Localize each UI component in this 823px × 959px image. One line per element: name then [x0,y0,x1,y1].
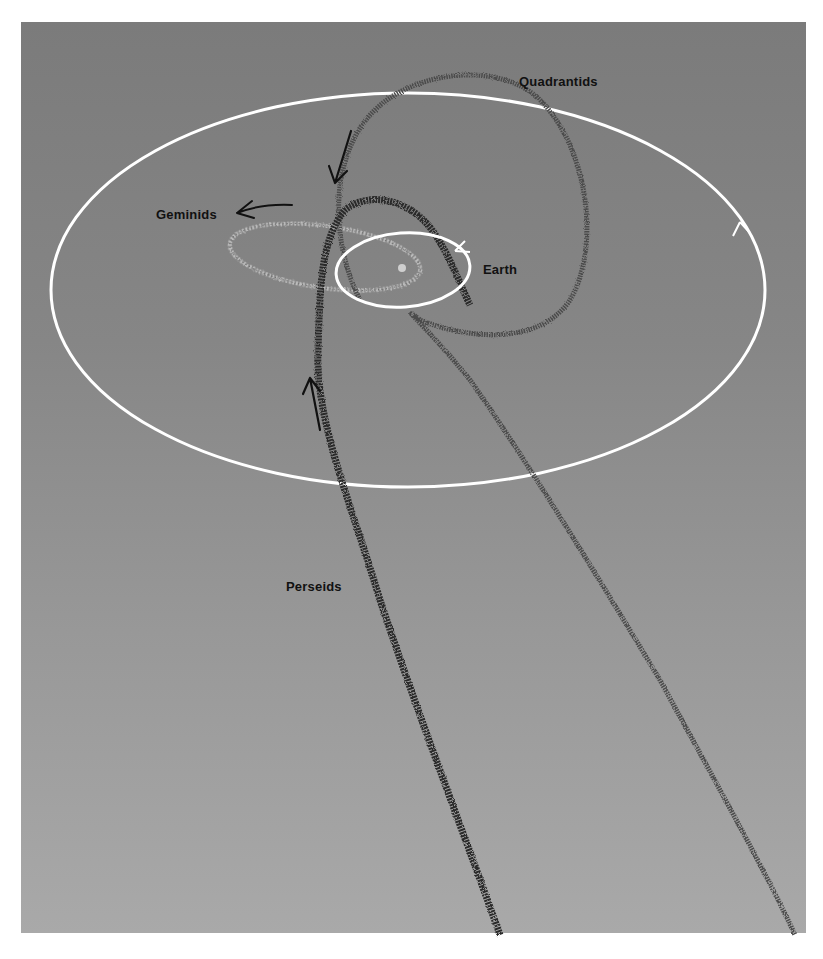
outer-orbit [51,93,765,487]
quadrantids-stream [339,75,795,935]
label-earth: Earth [483,262,517,277]
outer-orbit-arrow-icon [733,222,750,236]
perseids-direction-arrow-icon [303,378,320,430]
label-perseids: Perseids [286,579,342,594]
geminids-direction-arrow-icon [237,201,292,218]
label-quadrantids: Quadrantids [519,74,598,89]
label-geminids: Geminids [156,207,217,222]
orbit-diagram [0,0,823,959]
perseids-stream [318,200,500,935]
geminids-stream [226,213,425,301]
sun-dot [398,264,406,272]
